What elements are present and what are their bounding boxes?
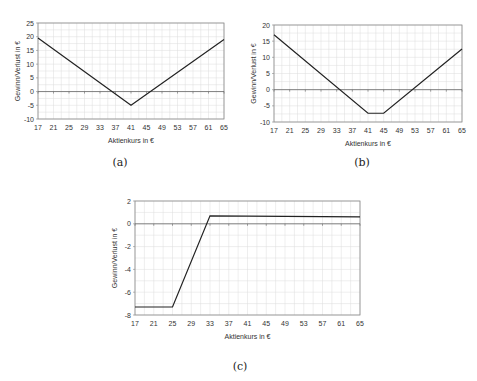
- x-tick-label: 29: [187, 320, 195, 327]
- x-tick-label: 45: [262, 320, 270, 327]
- x-tick-label: 49: [281, 320, 289, 327]
- y-tick-label: -2: [125, 243, 131, 250]
- x-tick-label: 25: [169, 320, 177, 327]
- plot-c: 20-2-4-6-817212529333741454953576165Akti…: [0, 0, 477, 381]
- chart-caption: (c): [233, 360, 248, 373]
- x-tick-label: 65: [356, 320, 364, 327]
- x-tick-label: 61: [337, 320, 345, 327]
- x-tick-label: 17: [131, 320, 139, 327]
- y-tick-label: 0: [127, 220, 131, 227]
- y-tick-label: -6: [125, 289, 131, 296]
- x-tick-label: 21: [150, 320, 158, 327]
- y-tick-label: -4: [125, 266, 131, 273]
- x-tick-label: 37: [225, 320, 233, 327]
- x-tick-label: 33: [206, 320, 214, 327]
- y-axis-title: Gewinn/Verlust in €: [111, 228, 118, 288]
- x-tick-label: 57: [319, 320, 327, 327]
- x-tick-label: 53: [300, 320, 308, 327]
- y-tick-label: -8: [125, 312, 131, 319]
- y-tick-label: 2: [127, 198, 131, 205]
- x-tick-label: 41: [244, 320, 252, 327]
- x-axis-title: Aktienkurs in €: [225, 333, 271, 340]
